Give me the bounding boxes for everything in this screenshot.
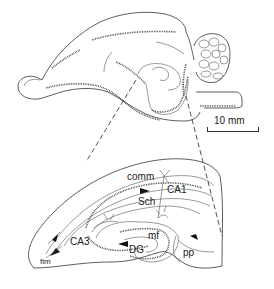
label-dg: DG <box>129 245 144 255</box>
mf-arrow-icon <box>118 241 128 247</box>
pp-arrow-icon <box>190 234 198 240</box>
fim-arrow-down-icon <box>50 248 60 256</box>
label-comm: comm <box>127 172 154 182</box>
label-pp: pp <box>183 248 194 258</box>
label-ca3: CA3 <box>70 237 89 247</box>
cerebellum <box>194 34 230 83</box>
label-fim: fim <box>40 258 51 266</box>
label-ca1: CA1 <box>167 185 186 195</box>
scale-bar-label: 10 mm <box>214 116 245 126</box>
label-mf: mf <box>148 231 159 241</box>
label-sch: Sch <box>138 197 155 207</box>
brain-lateral-view <box>18 12 242 121</box>
scale-bar <box>207 127 259 132</box>
